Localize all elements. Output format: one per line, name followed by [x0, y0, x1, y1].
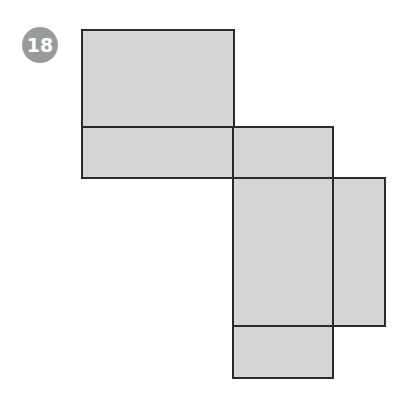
net-diagram [0, 0, 417, 396]
left-strip [82, 127, 234, 178]
middle-large [233, 178, 333, 326]
bottom-face [233, 326, 333, 378]
top-face [82, 30, 234, 127]
middle-top [233, 127, 333, 178]
right-side [333, 178, 385, 326]
